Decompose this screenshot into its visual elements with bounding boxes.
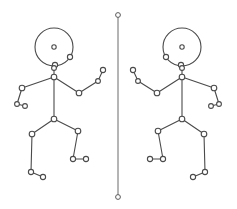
mirror-axis-group [116, 13, 121, 200]
bone-knee-r-to-ankle-r [73, 131, 78, 159]
joint-hand-left[interactable] [23, 104, 28, 109]
bone-chest-to-elbow-r [54, 77, 79, 93]
bone-hip-to-knee-l [158, 119, 182, 131]
skeleton-diagram-canvas [0, 0, 237, 209]
joint-elbow-left[interactable] [154, 90, 160, 96]
figure-right[interactable] [130, 28, 221, 180]
mirror-axis-bottom-node[interactable] [116, 195, 121, 200]
joint-chest[interactable] [179, 74, 185, 80]
bone-knee-l-to-ankle-l [158, 131, 163, 159]
joint-hand-left[interactable] [130, 67, 135, 72]
joint-knee-right[interactable] [201, 131, 207, 137]
joint-knee-left[interactable] [155, 128, 161, 134]
joint-ankle-left[interactable] [28, 169, 33, 174]
bone-chest-to-shoulder-l [22, 77, 54, 88]
joint-head-node-left[interactable] [163, 54, 168, 59]
joint-knee-left[interactable] [29, 131, 35, 137]
bone-chest-to-elbow-l [157, 77, 182, 93]
joint-ankle-right[interactable] [202, 169, 207, 174]
mirror-axis-top-node[interactable] [116, 13, 121, 18]
joint-elbow-left[interactable] [15, 102, 20, 107]
joint-neck[interactable] [180, 66, 185, 71]
bone-hip-to-knee-r [182, 119, 204, 134]
diagram-stage [0, 0, 237, 209]
joint-wrist-left[interactable] [136, 79, 141, 84]
bone-hip-to-knee-l [32, 119, 54, 134]
bone-elbow-r-to-wrist-r [79, 81, 98, 93]
joint-hip-center[interactable] [179, 116, 185, 122]
figure-left[interactable] [15, 28, 106, 180]
joint-neck[interactable] [52, 66, 57, 71]
bones-group [133, 68, 219, 177]
joint-hip-center[interactable] [51, 116, 57, 122]
joint-shoulder-left[interactable] [19, 85, 25, 91]
bones-group [17, 68, 103, 177]
joint-hand-right[interactable] [100, 67, 105, 72]
joint-hand-right[interactable] [209, 104, 214, 109]
joint-shoulder-right[interactable] [211, 85, 217, 91]
bone-hip-to-knee-r [54, 119, 78, 131]
joint-head-node-right[interactable] [67, 54, 72, 59]
joint-ankle-left[interactable] [160, 156, 165, 161]
bone-knee-l-to-ankle-l [31, 134, 32, 172]
joint-knee-right[interactable] [75, 128, 81, 134]
joint-head-center[interactable] [180, 45, 184, 49]
joint-toe-right[interactable] [83, 156, 88, 161]
joint-toe-left[interactable] [40, 174, 45, 179]
joint-wrist-right[interactable] [96, 79, 101, 84]
bone-knee-r-to-ankle-r [204, 134, 205, 172]
joint-toe-left[interactable] [147, 156, 152, 161]
joint-head-center[interactable] [52, 45, 56, 49]
joint-ankle-right[interactable] [70, 156, 75, 161]
joint-toe-right[interactable] [190, 174, 195, 179]
bone-chest-to-shoulder-r [182, 77, 214, 88]
joint-elbow-right[interactable] [217, 102, 222, 107]
joint-elbow-right[interactable] [76, 90, 82, 96]
bone-elbow-l-to-wrist-l [138, 81, 157, 93]
joint-chest[interactable] [51, 74, 57, 80]
